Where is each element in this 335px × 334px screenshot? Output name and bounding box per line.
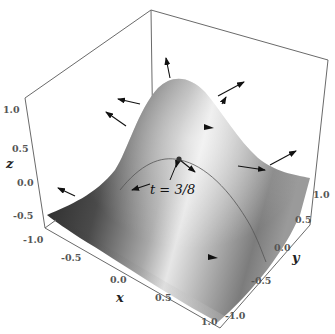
y-axis-label: y <box>291 250 301 265</box>
x-tick: 1.0 <box>201 316 218 327</box>
y-tick: -1.0 <box>225 310 246 321</box>
z-tick: -1.0 <box>23 234 44 245</box>
x-tick: 0.0 <box>110 274 127 285</box>
vector-arrow <box>166 58 170 78</box>
y-tick: 0.5 <box>295 214 312 225</box>
x-tick: 0.5 <box>155 292 172 303</box>
y-tick: 1.0 <box>313 189 330 200</box>
vector-arrow <box>270 151 296 165</box>
vector-arrow <box>58 188 75 196</box>
x-axis-label: x <box>115 290 124 305</box>
curve-point <box>176 156 181 161</box>
y-tick: 0.0 <box>274 242 291 253</box>
vector-arrow <box>218 82 244 96</box>
z-tick: 1.0 <box>3 104 20 115</box>
z-tick: -0.5 <box>13 210 33 221</box>
vector-arrow <box>118 99 140 104</box>
z-axis: 1.0 0.5 0.0 -0.5 -1.0 z <box>3 104 44 245</box>
vector-arrow <box>222 97 226 104</box>
annotation-label: t = 3/8 <box>150 182 195 197</box>
x-tick: -0.5 <box>61 252 81 263</box>
z-tick: 0.5 <box>12 143 29 154</box>
z-tick: 0.0 <box>17 177 34 188</box>
surface-plot: t = 3/8 1.0 0.5 0.0 -0.5 -1.0 z -0.5 0.0… <box>0 0 335 334</box>
y-tick: -0.5 <box>251 275 271 286</box>
z-axis-label: z <box>5 156 14 171</box>
vector-arrow <box>106 112 126 126</box>
